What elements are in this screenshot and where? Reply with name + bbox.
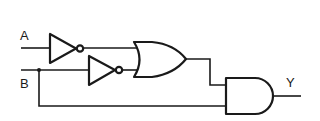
input-label-a: A [20,28,29,43]
logic-circuit-diagram: A B Y [0,0,320,121]
not-gate-1-triangle [50,34,76,63]
output-label-y: Y [286,75,295,90]
not-gate-2-triangle [89,56,115,85]
not-gate-2-bubble [116,67,122,73]
input-label-b: B [20,76,29,91]
wire-or-to-and [185,59,226,85]
and-gate [226,78,273,114]
not-gate-1-bubble [77,45,83,51]
not-gate-1 [50,34,83,63]
or-gate [134,42,186,77]
not-gate-2 [89,56,122,85]
wire-b-to-and [39,70,226,106]
